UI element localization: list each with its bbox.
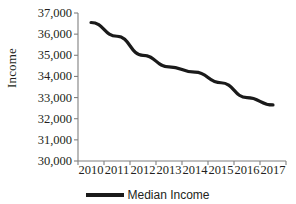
y-axis-tick-labels: 30,00031,00032,00033,00034,00035,00036,0… [18,0,72,170]
legend-line-swatch [86,193,124,197]
data-series-group [91,23,273,105]
axis-lines [74,13,286,165]
y-tick-label: 33,000 [18,92,72,104]
chart-legend: Median Income [0,185,296,204]
plot-svg [78,13,286,161]
y-tick-label: 35,000 [18,49,72,61]
y-tick-label: 36,000 [18,28,72,40]
line-chart: Income 30,00031,00032,00033,00034,00035,… [0,0,296,204]
y-tick-label: 32,000 [18,113,72,125]
series-line-median-income [91,23,273,105]
y-tick-label: 34,000 [18,70,72,82]
y-tick-label: 31,000 [18,134,72,146]
y-tick-label: 30,000 [18,155,72,167]
x-axis-tick-labels: 20102011201220132014201520162017 [70,163,296,181]
plot-area [78,13,286,161]
legend-label-median-income: Median Income [127,188,209,202]
x-tick-label: 2017 [256,163,290,178]
y-tick-label: 37,000 [18,7,72,19]
